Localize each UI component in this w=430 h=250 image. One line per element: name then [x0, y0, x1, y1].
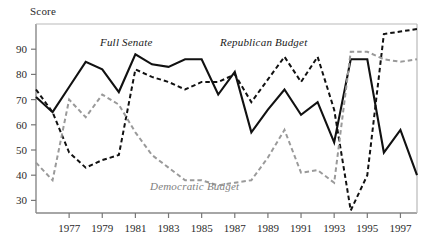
x-tick-label: 1995 [356, 222, 379, 234]
x-tick-label: 1993 [323, 222, 346, 234]
x-tick-label: 1987 [224, 222, 247, 234]
line-chart-plot: 30405060708090 1977197919811983198519871… [0, 0, 430, 250]
series-label-democratic-budget: Democratic Budget [150, 180, 239, 192]
x-tick-label: 1985 [191, 222, 214, 234]
y-tick-label: 80 [16, 68, 28, 80]
x-tick-group: 1977197919811983198519871989199119931995… [58, 213, 412, 234]
x-tick-label: 1977 [58, 222, 81, 234]
x-tick-label: 1989 [257, 222, 280, 234]
y-tick-group: 30405060708090 [16, 43, 36, 206]
series-label-republican-budget: Republican Budget [220, 36, 307, 48]
y-tick-label: 30 [16, 194, 28, 206]
x-tick-label: 1991 [290, 222, 312, 234]
y-tick-label: 60 [16, 119, 28, 131]
y-tick-label: 90 [16, 43, 28, 55]
x-tick-label: 1981 [124, 222, 146, 234]
x-tick-label: 1979 [91, 222, 114, 234]
series-label-full-senate: Full Senate [100, 36, 153, 48]
series-line-full-senate [36, 54, 417, 175]
x-tick-label: 1983 [158, 222, 181, 234]
chart-container: Score 30405060708090 1977197919811983198… [0, 0, 430, 250]
y-tick-label: 40 [16, 169, 28, 181]
y-tick-label: 50 [16, 144, 28, 156]
y-tick-label: 70 [16, 94, 28, 106]
x-tick-label: 1997 [389, 222, 412, 234]
